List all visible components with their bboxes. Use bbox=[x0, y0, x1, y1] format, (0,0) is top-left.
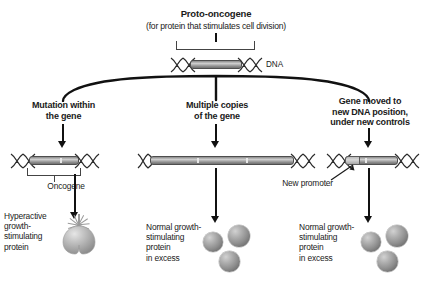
arrow-shaft-mutation bbox=[62, 124, 64, 142]
amplified-gene-segments bbox=[150, 156, 294, 165]
page-subtitle: (for protein that stimulates cell divisi… bbox=[96, 21, 336, 32]
protein-sphere bbox=[228, 225, 250, 247]
branch-heading-multiple-copies-l1: Multiple copies bbox=[158, 100, 276, 111]
oncogene-label: Oncogene bbox=[26, 181, 106, 191]
branch-heading-gene-moved: Gene moved to new DNA position, under ne… bbox=[310, 96, 430, 128]
arrow-head-mutation bbox=[58, 141, 66, 148]
branch-heading-gene-moved-l2: new DNA position, bbox=[310, 107, 430, 118]
protein-sphere bbox=[203, 232, 223, 252]
protein-sphere bbox=[377, 251, 398, 272]
branch-heading-mutation-l1: Mutation within bbox=[6, 100, 121, 111]
dna-helix-right-icon bbox=[394, 152, 420, 170]
arrow-shaft-protein-mutation bbox=[74, 174, 76, 214]
hyperactive-protein-body bbox=[62, 225, 96, 255]
gene-seg-divider bbox=[365, 158, 367, 163]
oncogene-segment bbox=[29, 156, 79, 165]
protein-sphere bbox=[361, 232, 381, 252]
gene-seg-divider bbox=[246, 158, 248, 163]
result-line: in excess bbox=[146, 253, 220, 263]
new-promoter-leader bbox=[330, 160, 364, 182]
title-bracket bbox=[176, 41, 255, 50]
gene-segment bbox=[190, 60, 242, 69]
dna-helix-right-icon bbox=[290, 152, 316, 170]
result-line: growth- bbox=[4, 221, 64, 231]
branch-heading-mutation: Mutation within the gene bbox=[6, 100, 121, 121]
branch-heading-gene-moved-l3: under new controls bbox=[310, 117, 430, 128]
branch-heading-multiple-copies-l2: of the gene bbox=[158, 111, 276, 122]
arrow-shaft-protein-multiple bbox=[215, 168, 217, 218]
result-label-hyperactive: Hyperactive growth- stimulating protein bbox=[4, 211, 64, 252]
result-line: Hyperactive bbox=[4, 211, 64, 221]
protein-sphere bbox=[219, 251, 240, 272]
result-line: protein bbox=[4, 242, 64, 252]
branch-heading-mutation-l2: the gene bbox=[6, 111, 121, 122]
gene-seg-divider bbox=[60, 158, 62, 163]
result-line: Normal growth- bbox=[146, 222, 220, 232]
dna-helix-right-icon bbox=[237, 56, 263, 74]
arrow-head-gene-moved bbox=[364, 141, 372, 148]
oncogene-bracket bbox=[27, 168, 81, 176]
gene-seg-divider bbox=[197, 158, 199, 163]
branch-heading-multiple-copies: Multiple copies of the gene bbox=[158, 100, 276, 121]
dna-label: DNA bbox=[266, 60, 283, 69]
result-line: stimulating bbox=[4, 231, 64, 241]
page-title: Proto-oncogene bbox=[116, 8, 316, 19]
arrow-shaft-multiple-copies bbox=[215, 124, 217, 142]
protein-sphere bbox=[386, 225, 408, 247]
result-line: in excess bbox=[299, 253, 373, 263]
arrow-shaft-gene-moved bbox=[368, 128, 370, 142]
arrow-head-multiple-copies bbox=[211, 141, 219, 148]
branch-heading-gene-moved-l1: Gene moved to bbox=[310, 96, 430, 107]
arrow-shaft-protein-moved bbox=[368, 168, 370, 218]
new-promoter-label: New promoter bbox=[281, 178, 333, 188]
result-line: Normal growth- bbox=[299, 222, 373, 232]
